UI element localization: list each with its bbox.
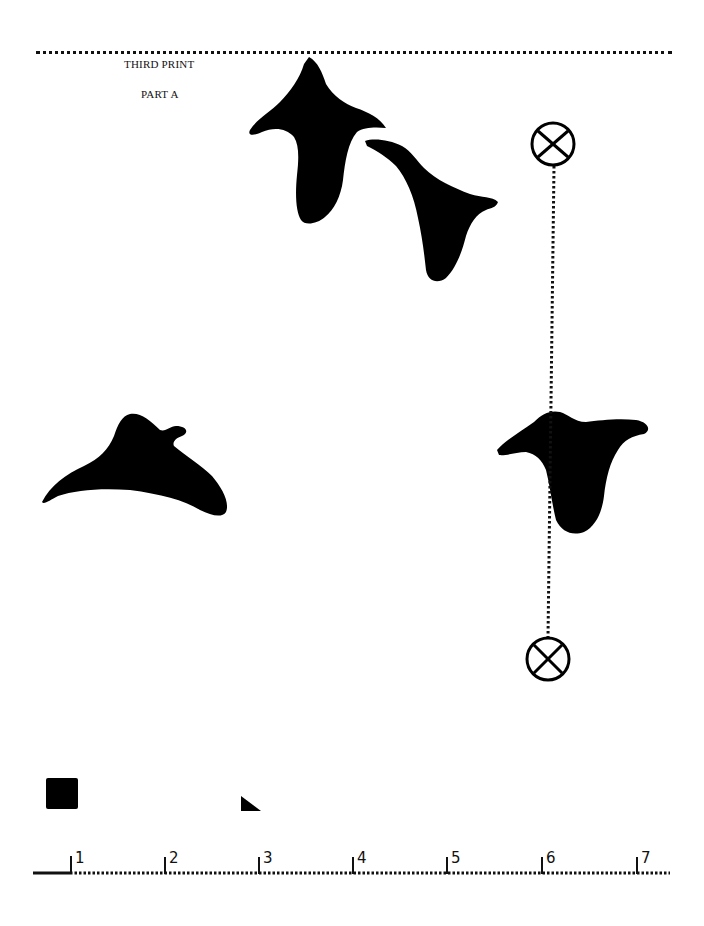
ruler-tick-6 — [541, 857, 543, 874]
ruler-label-2: 2 — [169, 849, 179, 867]
ruler-label-1: 1 — [75, 849, 85, 867]
silhouette-3 — [42, 414, 227, 516]
crosshair-marker-bottom — [527, 638, 569, 680]
black-triangle-swatch — [241, 796, 261, 811]
ruler-tick-2 — [164, 857, 166, 874]
ruler-label-7: 7 — [641, 849, 651, 867]
silhouette-1 — [249, 57, 386, 224]
ruler-tick-4 — [352, 857, 354, 874]
ruler-label-6: 6 — [546, 849, 556, 867]
ruler-tick-5 — [446, 857, 448, 874]
ruler-label-5: 5 — [451, 849, 461, 867]
ruler-tick-7 — [636, 857, 638, 874]
figure-layer — [0, 0, 704, 926]
silhouette-4 — [497, 411, 648, 533]
ruler-tick-3 — [258, 857, 260, 874]
crosshair-marker-top — [532, 123, 574, 165]
connector-dotted-line — [548, 166, 554, 637]
silhouette-2 — [365, 140, 498, 282]
ruler-label-3: 3 — [263, 849, 273, 867]
black-square-swatch — [46, 778, 78, 809]
ruler-label-4: 4 — [357, 849, 367, 867]
ruler-tick-1 — [70, 856, 72, 874]
